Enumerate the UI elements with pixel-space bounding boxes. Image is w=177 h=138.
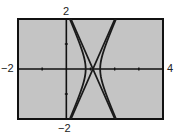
graph-screen bbox=[0, 0, 177, 138]
